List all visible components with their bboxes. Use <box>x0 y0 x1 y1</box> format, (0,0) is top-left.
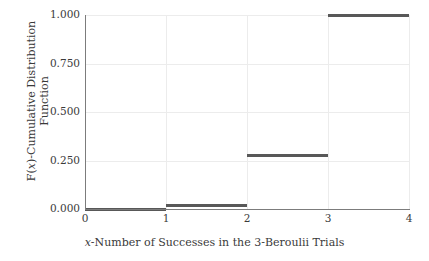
plot-area <box>85 15 409 209</box>
x-axis-title: x-Number of Successes in the 3-Beroulii … <box>0 236 429 249</box>
y-tick-label: 0.250 <box>50 155 80 166</box>
gridline-vertical <box>247 15 248 209</box>
y-axis-spine <box>85 15 86 210</box>
y-axis-title: F(x)-Cumulative Distribution Function <box>25 1 51 201</box>
step-segment <box>247 154 328 157</box>
x-tick-label: 4 <box>399 212 419 224</box>
y-axis-title-line-2: Function <box>38 1 51 201</box>
y-axis-title-variable: x <box>25 163 38 169</box>
x-axis-title-text: -Number of Successes in the 3-Beroulii T… <box>91 236 345 249</box>
y-tick-label: 1.000 <box>50 9 80 20</box>
y-tick-label: 0.500 <box>50 106 80 117</box>
x-tick-label: 1 <box>156 212 176 224</box>
step-segment <box>328 14 409 17</box>
x-tick-label: 3 <box>318 212 338 224</box>
step-segment <box>166 204 247 207</box>
gridline-vertical <box>328 15 329 209</box>
y-tick-label: 0.750 <box>50 58 80 69</box>
cdf-step-chart: 0.0000.2500.5000.7501.000 01234 x-Number… <box>0 0 429 261</box>
gridline-vertical <box>409 15 410 209</box>
y-axis-title-line-1: F(x)-Cumulative Distribution <box>25 1 38 201</box>
x-tick-label: 2 <box>237 212 257 224</box>
x-axis-spine <box>85 209 410 210</box>
gridline-vertical <box>166 15 167 209</box>
x-tick-label: 0 <box>75 212 95 224</box>
